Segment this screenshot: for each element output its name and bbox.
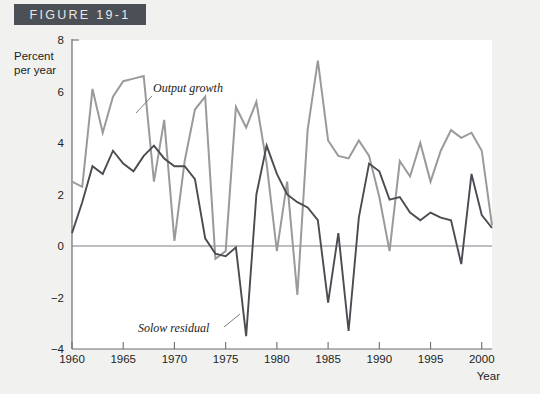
y-tick-label: 8 (58, 34, 64, 46)
x-tick-label: 1990 (367, 353, 393, 365)
annotation-solow-residual: Solow residual (138, 321, 210, 335)
figure-page: FIGURE 19-1 86420−2−41960196519701975198… (0, 0, 540, 394)
axis-layer: 86420−2−41960196519701975198019851990199… (51, 34, 495, 365)
leader-line-solow-residual (224, 314, 240, 327)
x-tick-label: 1980 (264, 353, 290, 365)
y-tick-label: 0 (58, 240, 64, 252)
y-tick-label: 2 (58, 189, 64, 201)
x-axis-label: Year (477, 370, 500, 382)
line-chart: 86420−2−41960196519701975198019851990199… (0, 0, 540, 394)
x-tick-label: 1995 (418, 353, 444, 365)
leader-line-output-growth (136, 96, 152, 113)
y-axis-label-line2: per year (14, 64, 56, 76)
x-tick-label: 2000 (469, 353, 495, 365)
y-tick-label: 6 (58, 86, 64, 98)
series-layer (72, 61, 492, 337)
x-tick-label: 1985 (315, 353, 341, 365)
y-tick-label: −2 (51, 292, 64, 304)
annotation-output-growth: Output growth (153, 81, 223, 95)
series-line-output-growth (72, 61, 492, 295)
y-tick-label: 4 (58, 137, 65, 149)
y-axis-label-line1: Percent (14, 50, 54, 62)
x-tick-label: 1960 (59, 353, 85, 365)
x-tick-label: 1975 (213, 353, 239, 365)
x-tick-label: 1970 (162, 353, 188, 365)
x-tick-label: 1965 (110, 353, 136, 365)
